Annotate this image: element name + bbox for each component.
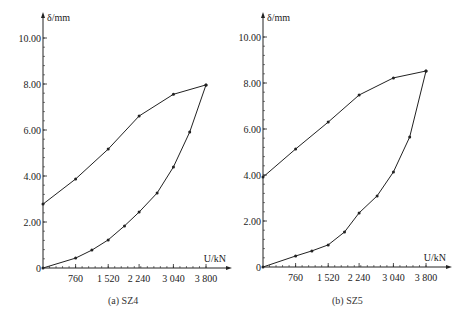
data-point (262, 176, 265, 179)
data-point (310, 249, 313, 252)
data-point (358, 93, 361, 96)
data-point (425, 70, 428, 73)
data-point (358, 211, 361, 214)
y-tick-label: 4.00 (244, 170, 262, 181)
series-line-loading (263, 71, 426, 267)
chart-caption-sz5: (b) SZ5 (332, 295, 363, 306)
chart-panel-sz5: 7601 5202 2403 0403 80002.004.006.008.00… (0, 0, 235, 320)
data-point (327, 121, 330, 124)
data-point (392, 171, 395, 174)
data-point (343, 231, 346, 234)
data-point (392, 76, 395, 79)
data-point (294, 148, 297, 151)
data-point (376, 194, 379, 197)
y-axis-arrow-icon (261, 12, 265, 18)
y-tick-label: 8.00 (244, 78, 262, 89)
x-tick-label: 1 520 (317, 272, 340, 283)
data-point (262, 266, 265, 269)
y-tick-label: 2.00 (244, 216, 262, 227)
series-line-unloading (263, 71, 426, 177)
x-tick-label: 3 040 (382, 272, 405, 283)
x-tick-label: 2 240 (348, 272, 371, 283)
y-tick-label: 6.00 (244, 124, 262, 135)
y-tick-label: 10.00 (239, 32, 262, 43)
chart-plot-sz5: 7601 5202 2403 0403 80002.004.006.008.00… (0, 0, 471, 320)
x-axis-arrow-icon (446, 265, 452, 269)
x-axis-label: U/kN (424, 252, 446, 263)
data-point (327, 243, 330, 246)
data-point (294, 254, 297, 257)
x-tick-label: 760 (288, 272, 303, 283)
data-point (408, 136, 411, 139)
y-tick-label: 0 (256, 262, 261, 273)
y-axis-label: δ/mm (267, 12, 290, 23)
x-tick-label: 3 800 (415, 272, 438, 283)
